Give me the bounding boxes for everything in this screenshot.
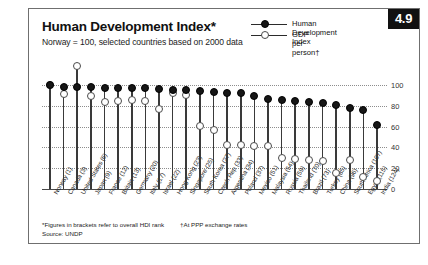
y-axis-tick-label: 60 xyxy=(391,122,399,131)
data-point-hdi xyxy=(319,99,327,107)
y-axis-tick-label: 100 xyxy=(391,81,404,90)
data-point-gdp xyxy=(87,92,95,100)
data-point-gdp xyxy=(223,141,231,149)
data-point-hdi xyxy=(196,87,204,95)
legend-label-gdp: GDP per person† xyxy=(292,30,319,57)
data-point-hdi xyxy=(87,83,95,91)
data-point-gdp xyxy=(210,126,218,134)
data-point-gdp xyxy=(155,105,163,113)
data-stem xyxy=(172,90,174,189)
data-point-hdi xyxy=(359,106,367,114)
page-title: Human Development Index* xyxy=(42,19,216,34)
y-axis-tick-label: 80 xyxy=(391,101,399,110)
data-point-gdp xyxy=(305,156,313,164)
data-point-hdi xyxy=(73,83,81,91)
data-point-hdi xyxy=(101,84,109,92)
data-point-hdi xyxy=(128,84,136,92)
data-point-hdi xyxy=(250,92,258,100)
data-point-gdp xyxy=(291,155,299,163)
data-stem xyxy=(185,90,187,189)
y-axis-tick-label: 0 xyxy=(391,185,395,194)
data-stem xyxy=(199,91,201,189)
data-stem xyxy=(322,103,324,189)
data-point-gdp xyxy=(196,122,204,130)
data-point-gdp xyxy=(141,97,149,105)
data-point-gdp xyxy=(278,154,286,162)
data-point-gdp xyxy=(264,142,272,150)
filled-circle-icon xyxy=(261,20,269,28)
data-stem xyxy=(213,92,215,189)
data-stem xyxy=(308,102,310,189)
data-stem xyxy=(63,87,65,189)
footnote-ppp: †At PPP exchange rates xyxy=(180,221,247,228)
data-point-gdp xyxy=(319,157,327,165)
chart-subtitle: Norway = 100, selected countries based o… xyxy=(42,37,243,47)
data-stem xyxy=(90,87,92,189)
data-point-hdi xyxy=(223,89,231,97)
data-stem xyxy=(49,85,51,189)
data-point-gdp xyxy=(250,142,258,150)
footnote: *Figures in brackets refer to overall HD… xyxy=(42,221,247,238)
open-circle-icon xyxy=(261,31,269,39)
data-point-gdp xyxy=(60,90,68,98)
data-point-gdp xyxy=(237,141,245,149)
figure-number-badge: 4.9 xyxy=(388,9,419,29)
y-axis-tick-label: 40 xyxy=(391,143,399,152)
data-point-hdi xyxy=(305,98,313,106)
footnote-brackets: *Figures in brackets refer to overall HD… xyxy=(42,221,164,228)
data-point-hdi xyxy=(291,97,299,105)
data-stem xyxy=(281,100,283,189)
data-point-hdi xyxy=(264,95,272,103)
legend-line-gdp xyxy=(251,35,287,36)
data-point-hdi xyxy=(210,88,218,96)
data-point-gdp xyxy=(128,96,136,104)
data-point-gdp xyxy=(101,98,109,106)
data-point-gdp xyxy=(332,169,340,177)
data-point-gdp xyxy=(114,97,122,105)
data-point-hdi xyxy=(141,84,149,92)
data-stem xyxy=(349,108,351,189)
data-point-hdi xyxy=(332,101,340,109)
data-point-hdi xyxy=(169,86,177,94)
data-point-hdi xyxy=(237,89,245,97)
data-stem xyxy=(294,101,296,189)
data-point-hdi xyxy=(60,83,68,91)
footnote-source: Source: UNDP xyxy=(42,230,83,237)
data-point-gdp xyxy=(359,173,367,181)
data-point-hdi xyxy=(46,81,54,89)
data-point-hdi xyxy=(155,85,163,93)
legend-line-hdi xyxy=(251,24,287,25)
data-point-hdi xyxy=(182,86,190,94)
plot-area: 020406080100Norway (1)Canada (3)United S… xyxy=(42,57,408,192)
data-point-gdp xyxy=(73,62,81,70)
data-point-hdi xyxy=(114,84,122,92)
data-point-gdp xyxy=(346,156,354,164)
data-point-gdp xyxy=(373,177,381,185)
data-point-hdi xyxy=(346,104,354,112)
data-point-hdi xyxy=(278,96,286,104)
chart-frame: 4.9 Human Development Index* Norway = 10… xyxy=(28,8,420,244)
data-point-hdi xyxy=(373,121,381,129)
